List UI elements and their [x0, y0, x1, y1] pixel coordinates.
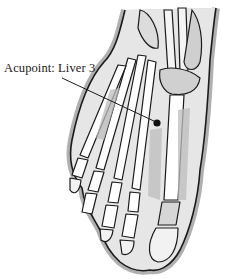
foot-illustration	[0, 0, 228, 279]
acupoint-label: Acupoint: Liver 3	[4, 61, 95, 76]
acupoint-marker	[153, 119, 160, 126]
foot-diagram: Acupoint: Liver 3	[0, 0, 228, 279]
